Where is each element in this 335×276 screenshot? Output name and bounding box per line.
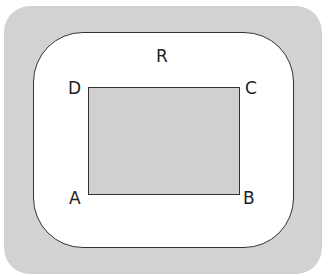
vertex-label-b: B xyxy=(243,190,255,207)
rectangle-abcd xyxy=(88,87,240,195)
vertex-label-c: C xyxy=(245,80,257,97)
region-label: R xyxy=(156,48,168,65)
vertex-label-a: A xyxy=(69,190,81,207)
vertex-label-d: D xyxy=(68,80,81,97)
